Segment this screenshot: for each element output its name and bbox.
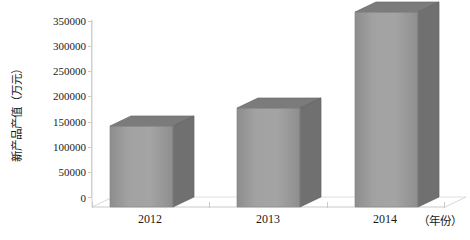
y-tick-label: 300000 — [28, 41, 86, 51]
bar-3d-faces — [235, 96, 335, 216]
x-tick-label-2012: 2012 — [120, 212, 180, 227]
y-tick-label: 0 — [28, 193, 86, 203]
y-tick-label: 350000 — [28, 16, 86, 26]
x-axis-unit-label: （年份） — [418, 212, 462, 228]
y-tick-label: 250000 — [28, 66, 86, 76]
x-tick-mark — [209, 202, 210, 208]
y-axis-tick-labels: 350000 300000 250000 200000 150000 10000… — [28, 0, 86, 240]
bar-chart-3d: 新产品产值（万元） 350000 300000 250000 200000 15… — [0, 0, 470, 240]
x-tick-label-2014: 2014 — [355, 212, 415, 227]
x-tick-mark — [92, 202, 93, 208]
y-tick-label: 200000 — [28, 91, 86, 101]
bar-3d-faces — [108, 114, 208, 214]
y-axis-line — [91, 20, 92, 198]
y-tick-label: 100000 — [28, 142, 86, 152]
y-tick-label: 50000 — [28, 167, 86, 177]
y-tick-label: 150000 — [28, 117, 86, 127]
x-tick-label-2013: 2013 — [238, 212, 298, 227]
y-axis-title: 新产品产值（万元） — [8, 37, 24, 187]
bar-3d-faces — [353, 0, 453, 215]
